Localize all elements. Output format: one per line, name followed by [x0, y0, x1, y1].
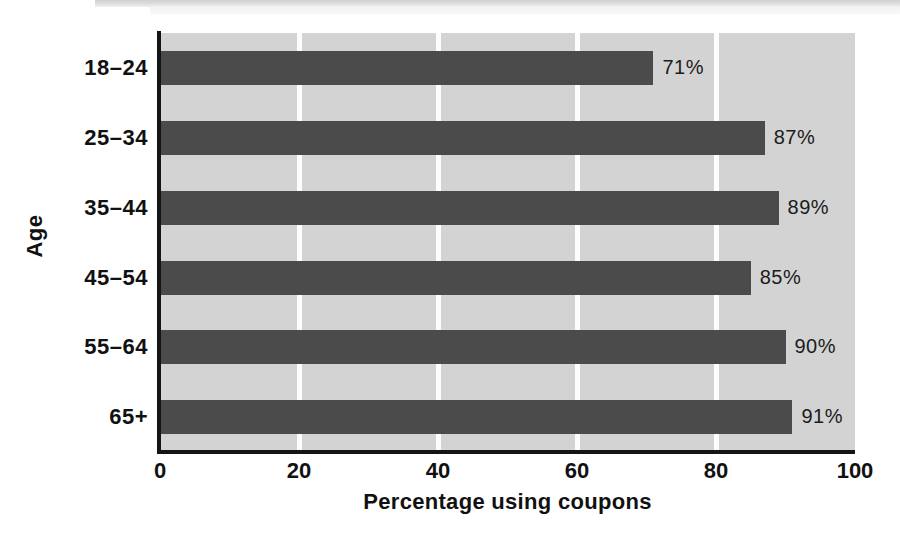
bar-value-label: 90%: [795, 329, 837, 363]
y-axis-line: [157, 31, 161, 454]
bar: [160, 330, 786, 364]
x-tick-label-80: 80: [671, 458, 761, 484]
category-label: 55–64: [8, 330, 148, 364]
category-label: 65+: [8, 400, 148, 434]
bar-row: 89%: [160, 173, 855, 243]
x-axis-title: Percentage using coupons: [160, 489, 855, 515]
bar-row: 91%: [160, 382, 855, 452]
plot-area: 71%87%89%85%90%91%: [160, 33, 855, 452]
bar-row: 90%: [160, 312, 855, 382]
bar-value-label: 85%: [760, 260, 802, 294]
category-label: 18–24: [8, 51, 148, 85]
bar: [160, 400, 792, 434]
x-tick-label-100: 100: [810, 458, 900, 484]
bar: [160, 261, 751, 295]
bar-value-label: 89%: [788, 190, 830, 224]
category-label: 25–34: [8, 121, 148, 155]
bar-value-label: 91%: [801, 399, 843, 433]
x-tick-label-40: 40: [393, 458, 483, 484]
bar-value-label: 87%: [774, 120, 816, 154]
y-axis-title: Age: [22, 181, 48, 291]
x-tick-label-20: 20: [254, 458, 344, 484]
bar: [160, 121, 765, 155]
bar-row: 85%: [160, 243, 855, 313]
bar: [160, 51, 653, 85]
bar-value-label: 71%: [662, 50, 704, 84]
horizontal-bar-chart: 71%87%89%85%90%91% 18–2425–3435–4445–545…: [0, 0, 900, 534]
x-axis-line: [157, 450, 855, 454]
bar: [160, 191, 779, 225]
x-tick-label-60: 60: [532, 458, 622, 484]
bar-row: 71%: [160, 33, 855, 103]
x-tick-label-0: 0: [115, 458, 205, 484]
bar-row: 87%: [160, 103, 855, 173]
